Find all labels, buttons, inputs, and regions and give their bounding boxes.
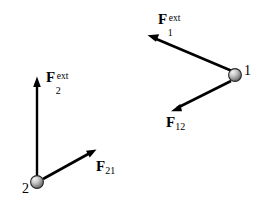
force-2-ext-label: F2ext xyxy=(46,70,55,85)
physics-diagram: F1ext F12 F2ext F21 1 2 xyxy=(0,0,260,217)
particle-1-sphere xyxy=(229,69,242,82)
force-1-ext-arrow xyxy=(148,34,233,71)
force-21-label: F21 xyxy=(96,159,115,176)
force-2-ext-arrow xyxy=(33,77,41,177)
force-21-base: F xyxy=(96,158,105,174)
force-1-ext-base: F xyxy=(158,11,167,27)
force-2-ext-subscript: 2 xyxy=(56,86,61,96)
force-21-subscript: 21 xyxy=(105,165,115,176)
force-2-ext-superscript: ext xyxy=(57,72,69,82)
force-1-ext-label: F1ext xyxy=(158,12,167,27)
force-21-arrow xyxy=(43,150,97,180)
force-12-label: F12 xyxy=(166,115,185,132)
force-12-base: F xyxy=(166,114,175,130)
force-12-subscript: 12 xyxy=(175,121,185,132)
particle-1-label: 1 xyxy=(244,64,251,78)
vector-canvas xyxy=(0,0,260,217)
force-1-ext-subscript: 1 xyxy=(168,28,173,38)
force-2-ext-base: F xyxy=(46,69,55,85)
force-12-arrow xyxy=(171,81,231,111)
particle-2-label: 2 xyxy=(22,182,29,196)
force-1-ext-superscript: ext xyxy=(169,14,181,24)
particle-2-sphere xyxy=(31,176,44,189)
